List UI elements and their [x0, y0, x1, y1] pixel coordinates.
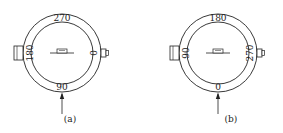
diagram-b: 180 90 270 0 [170, 13, 265, 114]
left-mount-icon [170, 46, 179, 60]
label-left: 180 [25, 44, 35, 61]
level-bubble-icon [206, 49, 230, 53]
arrow-up-icon [60, 93, 64, 115]
left-mount-icon [14, 46, 23, 60]
label-bottom: 90 [56, 82, 68, 92]
label-right: 0 [89, 50, 99, 56]
level-bubble-icon [50, 49, 74, 53]
label-top: 270 [53, 13, 70, 23]
figure: 270 180 0 90 (a) 180 90 270 0 (b) [0, 0, 283, 133]
diagram-a: 270 180 0 90 [14, 13, 109, 114]
caption-a: (a) [64, 114, 76, 124]
label-bottom: 0 [215, 82, 221, 92]
label-top: 180 [209, 13, 226, 23]
label-left: 90 [181, 47, 191, 59]
arrow-up-icon [216, 93, 220, 115]
right-mount-icon [101, 49, 106, 57]
caption-b: (b) [225, 114, 238, 124]
right-mount-icon [257, 49, 262, 57]
label-right: 270 [245, 44, 255, 61]
